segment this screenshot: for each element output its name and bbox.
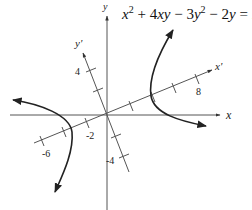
tick-label-y-prime-neg4: -4: [106, 155, 114, 166]
hyperbola-left-branch: [13, 100, 72, 192]
x-prime-axis: [34, 70, 212, 146]
y-prime-axis-label: y': [74, 37, 83, 49]
hyperbola-right-branch: [151, 30, 206, 126]
hyperbola-diagram: x y x' 8 -2 -6 y' 4 -4: [0, 0, 252, 210]
tick-label-x-prime-neg2: -2: [86, 130, 94, 141]
x-axis-label: x: [225, 108, 232, 122]
tick-label-x-prime-8: 8: [196, 86, 201, 97]
tick-label-x-prime-neg6: -6: [42, 148, 50, 159]
x-prime-axis-label: x': [214, 60, 223, 72]
y-axis-label: y: [102, 1, 108, 12]
tick-label-y-prime-4: 4: [75, 66, 80, 77]
